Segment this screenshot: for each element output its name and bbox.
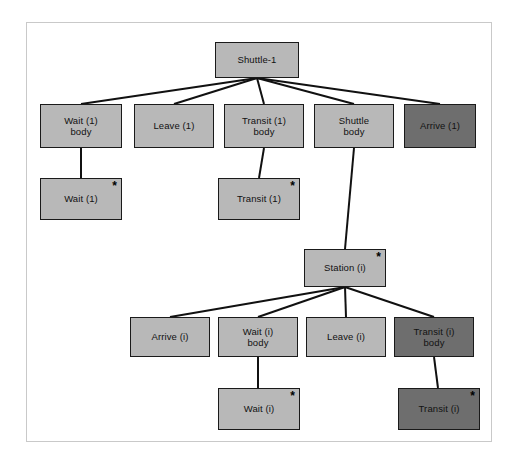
node-label: Wait (1)	[61, 193, 101, 205]
edge-station-i-to-leave-i	[345, 287, 346, 317]
node-label: Arrive (1)	[417, 120, 463, 132]
node-wait-1-body[interactable]: Wait (1) body	[40, 104, 122, 148]
node-shuttle-1[interactable]: Shuttle-1	[215, 42, 299, 78]
edge-transit-1-body-to-transit-1	[259, 148, 264, 178]
node-transit-1[interactable]: Transit (1)*	[218, 178, 300, 220]
edge-shuttle-1-to-arrive-1	[257, 78, 440, 104]
node-label: Shuttle body	[336, 115, 372, 138]
node-label: Transit (i)	[416, 403, 463, 415]
edge-shuttle-1-to-leave-1	[174, 78, 257, 104]
node-station-i[interactable]: Station (i)*	[304, 249, 386, 287]
node-label: Leave (1)	[150, 120, 197, 132]
node-transit-i[interactable]: Transit (i)*	[398, 388, 480, 430]
edge-shuttle-1-to-shuttle-body	[257, 78, 354, 104]
node-transit-1-body[interactable]: Transit (1) body	[224, 104, 304, 148]
node-label: Wait (i) body	[240, 326, 277, 349]
recursion-star-icon: *	[470, 390, 475, 402]
node-leave-i[interactable]: Leave (i)	[306, 317, 386, 357]
node-arrive-i[interactable]: Arrive (i)	[130, 317, 210, 357]
node-label: Wait (i)	[241, 403, 278, 415]
diagram-canvas: Shuttle-1Wait (1) bodyLeave (1)Transit (…	[0, 0, 510, 463]
node-label: Transit (i) body	[411, 326, 458, 349]
node-wait-i-body[interactable]: Wait (i) body	[218, 317, 298, 357]
node-label: Leave (i)	[324, 331, 368, 343]
edge-shuttle-1-to-wait-1-body	[81, 78, 257, 104]
node-label: Arrive (i)	[149, 331, 192, 343]
node-label: Shuttle-1	[235, 54, 280, 66]
edge-transit-i-body-to-transit-i	[434, 357, 438, 388]
edge-shuttle-body-to-station-i	[345, 148, 354, 249]
node-label: Transit (1)	[234, 193, 284, 205]
recursion-star-icon: *	[290, 390, 295, 402]
recursion-star-icon: *	[376, 251, 381, 263]
node-transit-i-body[interactable]: Transit (i) body	[394, 317, 474, 357]
node-leave-1[interactable]: Leave (1)	[134, 104, 214, 148]
edge-station-i-to-wait-i-body	[258, 287, 345, 317]
node-label: Wait (1) body	[61, 115, 101, 138]
node-label: Station (i)	[321, 262, 369, 274]
edge-shuttle-1-to-transit-1-body	[257, 78, 264, 104]
node-wait-i[interactable]: Wait (i)*	[218, 388, 300, 430]
node-shuttle-body[interactable]: Shuttle body	[314, 104, 394, 148]
edge-station-i-to-transit-i-body	[345, 287, 434, 317]
edge-station-i-to-arrive-i	[170, 287, 345, 317]
node-label: Transit (1) body	[239, 115, 289, 138]
recursion-star-icon: *	[290, 180, 295, 192]
node-wait-1[interactable]: Wait (1)*	[40, 178, 122, 220]
recursion-star-icon: *	[112, 180, 117, 192]
node-arrive-1[interactable]: Arrive (1)	[404, 104, 476, 148]
